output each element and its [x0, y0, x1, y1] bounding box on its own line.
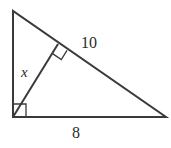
altitude-segment	[13, 44, 58, 117]
base-length-label: 8	[72, 125, 80, 141]
triangle-outline	[13, 11, 166, 117]
hypotenuse-length-label: 10	[81, 35, 97, 51]
geometry-figure: 10 x 8	[0, 0, 171, 148]
altitude-length-label: x	[21, 65, 28, 80]
